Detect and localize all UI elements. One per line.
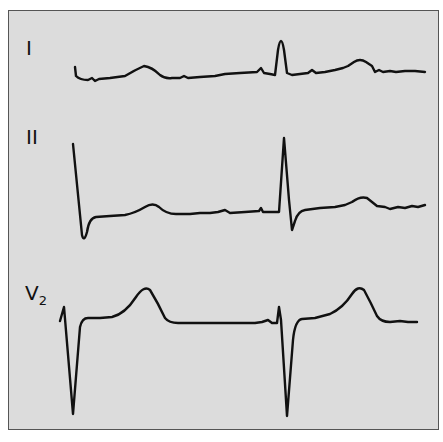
trace-lead-ii	[73, 138, 425, 238]
trace-lead-i	[75, 41, 425, 81]
trace-lead-v2	[60, 288, 417, 416]
ecg-traces	[0, 0, 443, 442]
ecg-figure: I II V2	[0, 0, 443, 442]
